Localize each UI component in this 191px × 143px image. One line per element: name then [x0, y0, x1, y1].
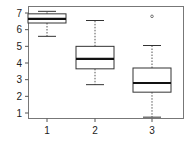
- y-tick-label: 3: [16, 74, 22, 85]
- x-tick-label: 3: [149, 125, 155, 136]
- y-tick-label: 2: [16, 91, 22, 102]
- iqr-box: [76, 46, 114, 68]
- box-plot: 1234567 123: [0, 0, 191, 143]
- outlier-point: [151, 15, 154, 18]
- x-tick-label: 2: [92, 125, 98, 136]
- x-tick-label: 1: [44, 125, 50, 136]
- iqr-box: [133, 68, 171, 92]
- y-tick-label: 4: [16, 58, 22, 69]
- box-1: [28, 11, 66, 36]
- y-tick-label: 6: [16, 24, 22, 35]
- y-axis: 1234567: [16, 8, 28, 119]
- y-tick-label: 1: [16, 108, 22, 119]
- box-2: [76, 21, 114, 85]
- y-tick-label: 7: [16, 8, 22, 19]
- y-tick-label: 5: [16, 41, 22, 52]
- box-3: [133, 15, 171, 117]
- boxes: [28, 11, 171, 117]
- x-axis: 123: [44, 119, 155, 137]
